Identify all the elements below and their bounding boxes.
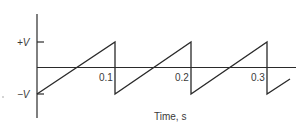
x-axis-label: Time, s [154, 111, 186, 122]
x-tick-label-0-1: 0.1 [99, 72, 113, 83]
x-tick-label-0-3: 0.3 [251, 72, 265, 83]
sawtooth-waveform-diagram: +V −V 0.1 0.2 0.3 Time, s [0, 0, 307, 137]
scan-artifact [2, 96, 3, 97]
plus-v-label: +V [17, 37, 31, 48]
x-tick-label-0-2: 0.2 [175, 72, 189, 83]
minus-v-label: −V [17, 89, 31, 100]
